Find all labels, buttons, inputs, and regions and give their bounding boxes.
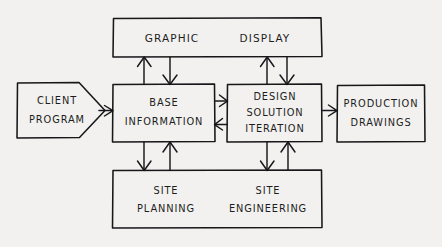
production-drawings-label-2: DRAWINGS <box>350 117 411 128</box>
node-base-information[interactable]: BASE INFORMATION <box>113 84 216 142</box>
node-client-program[interactable]: CLIENT PROGRAM <box>17 83 105 139</box>
client-program-label-1: CLIENT <box>37 95 77 106</box>
base-information-outline <box>113 84 216 142</box>
design-solution-label-2: SOLUTION <box>246 107 303 118</box>
node-site-bottom-container <box>113 170 323 228</box>
site-planning-label-1: SITE <box>154 185 179 196</box>
arrow-design-to-siteengineering <box>261 143 275 171</box>
graphic-display-label-1: GRAPHIC <box>145 32 200 44</box>
diagram-canvas: GRAPHIC DISPLAY CLIENT PROGRAM BASE INFO… <box>0 0 442 247</box>
arrow-base-to-design <box>216 95 228 107</box>
node-graphic-display[interactable]: GRAPHIC DISPLAY <box>113 18 322 57</box>
production-drawings-label-1: PRODUCTION <box>344 98 419 109</box>
base-information-label-2: INFORMATION <box>125 116 204 127</box>
site-planning-label-2: PLANNING <box>137 203 195 214</box>
graphic-display-label-2: DISPLAY <box>240 32 291 44</box>
arrow-base-to-graphic <box>138 57 152 84</box>
arrow-graphic-to-design <box>280 58 294 85</box>
node-site-engineering[interactable]: SITE ENGINEERING <box>229 185 307 214</box>
arrow-graphic-to-base <box>163 58 177 85</box>
production-drawings-outline <box>337 85 425 142</box>
node-site-planning[interactable]: SITE PLANNING <box>137 185 195 214</box>
arrow-siteengineering-to-design <box>281 142 295 170</box>
client-program-label-2: PROGRAM <box>29 114 85 125</box>
design-solution-label-1: DESIGN <box>253 91 296 102</box>
design-solution-label-3: ITERATION <box>245 123 304 134</box>
diagram-svg: GRAPHIC DISPLAY CLIENT PROGRAM BASE INFO… <box>0 0 442 247</box>
base-information-label-1: BASE <box>149 97 178 108</box>
arrow-design-to-production <box>323 105 338 116</box>
site-bottom-outline <box>113 170 323 228</box>
node-production-drawings[interactable]: PRODUCTION DRAWINGS <box>337 85 425 142</box>
arrow-design-to-graphic <box>261 57 275 84</box>
site-engineering-label-2: ENGINEERING <box>229 203 307 214</box>
arrow-base-to-siteplanning <box>138 143 152 171</box>
client-program-outline <box>17 83 105 139</box>
arrow-siteplanning-to-base <box>163 142 177 170</box>
site-engineering-label-1: SITE <box>256 185 281 196</box>
node-design-solution-iteration[interactable]: DESIGN SOLUTION ITERATION <box>227 84 322 142</box>
arrow-design-to-base <box>215 119 228 131</box>
